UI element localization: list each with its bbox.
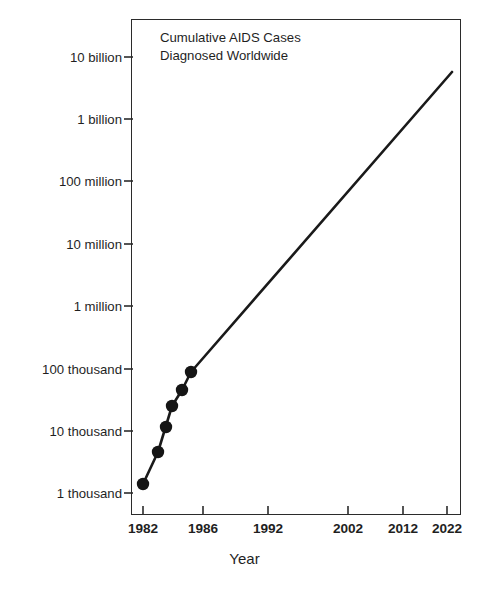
- x-axis-tick-marks: [143, 506, 447, 514]
- y-axis-tick-marks: [124, 57, 133, 493]
- data-point-marker: [185, 366, 197, 378]
- data-point-marker: [176, 384, 188, 396]
- data-series-line: [143, 72, 452, 484]
- data-point-marker: [166, 400, 178, 412]
- chart-plot-overlay: [0, 0, 489, 598]
- data-point-marker: [152, 446, 164, 458]
- data-point-markers: [137, 366, 197, 490]
- data-point-marker: [160, 421, 172, 433]
- data-point-marker: [137, 478, 149, 490]
- chart-figure: Cumulative AIDS Cases Diagnosed Worldwid…: [0, 0, 489, 598]
